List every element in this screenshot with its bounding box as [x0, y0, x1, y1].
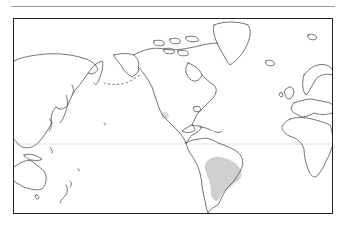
world-map [13, 18, 333, 214]
map-canvas [14, 19, 333, 214]
coast-gulf-mexico [182, 125, 195, 133]
coast-north-america-east [186, 75, 216, 143]
coast-hudson-bay [186, 63, 202, 81]
coast-africa [282, 118, 333, 178]
coast-north-america-arctic [134, 43, 218, 55]
coast-scandinavia [303, 64, 333, 95]
top-divider [11, 6, 335, 7]
coast-east-asia [14, 107, 56, 148]
coast-europe-main [291, 99, 333, 117]
coast-greenland [213, 22, 250, 65]
coast-great-lakes [193, 106, 200, 112]
coast-tasmania [35, 195, 39, 199]
coast-new-guinea [24, 154, 42, 160]
coast-arctic-islands [154, 36, 199, 56]
coast-aleutians [104, 75, 140, 85]
coast-caribbean [200, 127, 222, 133]
coast-australia [14, 160, 46, 189]
coast-british-isles [279, 87, 294, 99]
coast-alaska [114, 54, 139, 78]
coast-kamchatka [88, 61, 103, 85]
coast-north-america-west [138, 67, 186, 143]
coast-pacific-islands [50, 123, 105, 171]
coast-svalbard [308, 34, 317, 40]
coast-japan [60, 85, 74, 123]
coast-iceland [266, 60, 275, 66]
coast-new-zealand [60, 181, 72, 203]
coast-russia [14, 54, 98, 109]
